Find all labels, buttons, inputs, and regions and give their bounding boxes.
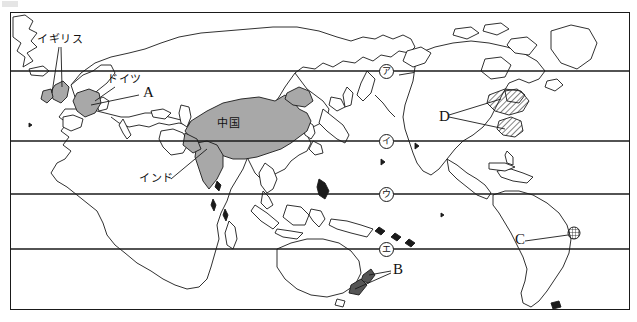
label-india: インド (139, 173, 174, 184)
indochina (259, 163, 277, 193)
leader-uk-2 (61, 47, 62, 87)
screenshot-root: イギリス ドイツ 中国 インド A B C D ア イ ウ エ (0, 0, 637, 322)
label-uk: イギリス (37, 34, 83, 45)
australia (277, 239, 361, 297)
atlantic-dot-1 (29, 123, 32, 127)
africa-east-islets-3 (223, 209, 228, 221)
sakhalin (343, 87, 353, 107)
kuril-arc (375, 95, 395, 117)
label-b: B (393, 262, 403, 277)
newfoundland (545, 79, 563, 91)
central-america (447, 159, 491, 199)
pacific-islets-2 (391, 233, 401, 241)
kamchatka (357, 71, 375, 101)
florida (505, 151, 513, 165)
uk-ireland-fill (41, 89, 53, 103)
java (275, 229, 303, 239)
pacific-islets-3 (405, 239, 415, 247)
philippines (317, 179, 329, 199)
south-america-site-circle (568, 227, 580, 239)
crosshatch-site-c (568, 227, 580, 239)
borneo (283, 205, 309, 225)
label-germany: ドイツ (107, 74, 142, 85)
label-a: A (143, 85, 154, 100)
pacific-dot-2 (441, 213, 444, 217)
pacific-islets-1 (375, 227, 385, 235)
arctic-islands-2 (483, 23, 509, 35)
greenland-west-sliver (13, 15, 37, 67)
marker-i: イ (379, 134, 394, 149)
world-map-graphic (11, 13, 630, 310)
japan-honshu (319, 109, 349, 143)
map-frame: イギリス ドイツ 中国 インド A B C D ア イ ウ エ (10, 12, 630, 310)
arctic-islands-1 (453, 27, 479, 39)
madagascar (225, 221, 237, 249)
new-guinea (329, 219, 373, 237)
marker-a: ア (379, 64, 394, 79)
label-china: 中国 (217, 118, 240, 129)
tasmania (335, 299, 345, 307)
pacific-dot-1 (381, 159, 385, 165)
greenland-east (551, 25, 597, 69)
label-c: C (515, 232, 525, 247)
falklands (551, 301, 561, 309)
label-d: D (439, 109, 450, 124)
usa-hatched-south (497, 117, 523, 137)
marker-u: ウ (379, 187, 394, 202)
japan-hokkaido (329, 97, 345, 111)
scan-artifact (2, 1, 18, 7)
landmass-outlines (13, 15, 597, 309)
marker-e: エ (379, 242, 394, 257)
sulawesi (309, 209, 325, 227)
sumatra (251, 205, 279, 229)
